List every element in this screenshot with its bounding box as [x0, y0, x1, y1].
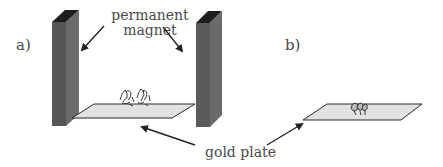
panel-b: b): [267, 36, 422, 145]
panel-a: a) permanent magnet: [16, 7, 222, 145]
gold-plate-a: [72, 104, 195, 118]
arrow-to-plate-b: [267, 124, 302, 145]
diagram: a) permanent magnet gold pla: [0, 0, 443, 167]
gold-plate-label: gold plate: [205, 144, 276, 160]
right-magnet: [196, 11, 222, 127]
arrow-to-left-magnet: [82, 26, 104, 50]
nanostructures-a: [120, 89, 150, 106]
arrow-to-plate-a: [142, 127, 195, 145]
panel-a-label: a): [16, 36, 31, 54]
left-magnet: [52, 10, 79, 126]
panel-b-label: b): [285, 36, 300, 54]
magnet-label-line1: permanent: [111, 7, 189, 23]
